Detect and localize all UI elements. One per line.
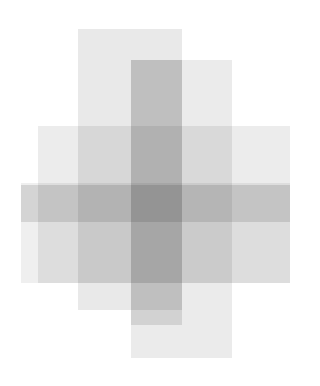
artwork-canvas [0, 0, 320, 386]
shape-rect-6 [21, 185, 290, 222]
